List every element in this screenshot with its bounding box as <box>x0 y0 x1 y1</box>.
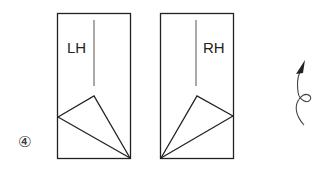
right-panel: RH <box>161 14 234 159</box>
left-panel: LH <box>58 14 131 159</box>
right-panel-label: RH <box>203 39 225 56</box>
right-fold-line <box>161 116 233 158</box>
left-fold-line <box>58 117 130 158</box>
left-fold-triangle <box>58 96 130 158</box>
curved-rotation-arrow-icon <box>296 60 311 125</box>
diagram-canvas: ④ LH RH <box>0 0 333 173</box>
right-fold-triangle <box>161 96 233 158</box>
left-panel-label: LH <box>67 39 86 56</box>
step-marker: ④ <box>18 133 31 151</box>
